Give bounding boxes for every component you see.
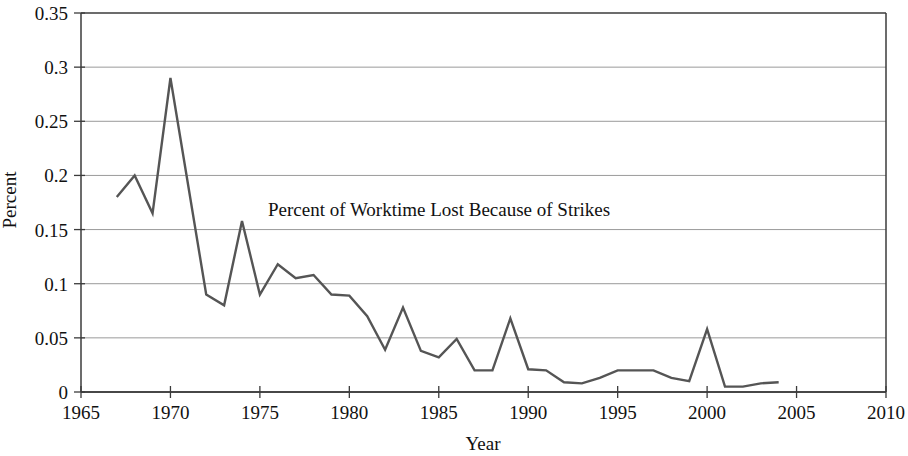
data-series-line	[117, 78, 779, 387]
x-tick-label: 1995	[599, 402, 637, 423]
y-tick-label: 0.1	[44, 274, 68, 295]
chart-container: 00.050.10.150.20.250.30.35 1965197019751…	[0, 0, 908, 456]
y-tick-labels: 00.050.10.150.20.250.30.35	[35, 3, 68, 403]
y-tick-label: 0.2	[44, 165, 68, 186]
x-tick-label: 2010	[867, 402, 905, 423]
x-tick-label: 1985	[420, 402, 458, 423]
series-polyline	[117, 78, 779, 387]
x-tick-label: 1970	[151, 402, 189, 423]
y-tick-label: 0.25	[35, 111, 68, 132]
x-tick-label: 1990	[509, 402, 547, 423]
worktime-lost-line-chart: 00.050.10.150.20.250.30.35 1965197019751…	[0, 0, 908, 456]
x-tick-label: 1980	[330, 402, 368, 423]
x-axis-label: Year	[465, 433, 501, 454]
x-axis	[81, 386, 886, 398]
x-tick-labels: 1965197019751980198519901995200020052010	[62, 402, 905, 423]
y-tick-label: 0.15	[35, 220, 68, 241]
x-tick-label: 2000	[688, 402, 726, 423]
chart-title: Percent of Worktime Lost Because of Stri…	[268, 199, 610, 220]
x-tick-label: 1965	[62, 402, 100, 423]
y-tick-label: 0	[59, 382, 69, 403]
y-axis-label: Percent	[0, 171, 20, 229]
y-tick-label: 0.35	[35, 3, 68, 24]
y-tick-label: 0.3	[44, 57, 68, 78]
x-tick-label: 2005	[778, 402, 816, 423]
y-tick-label: 0.05	[35, 328, 68, 349]
x-tick-label: 1975	[241, 402, 279, 423]
